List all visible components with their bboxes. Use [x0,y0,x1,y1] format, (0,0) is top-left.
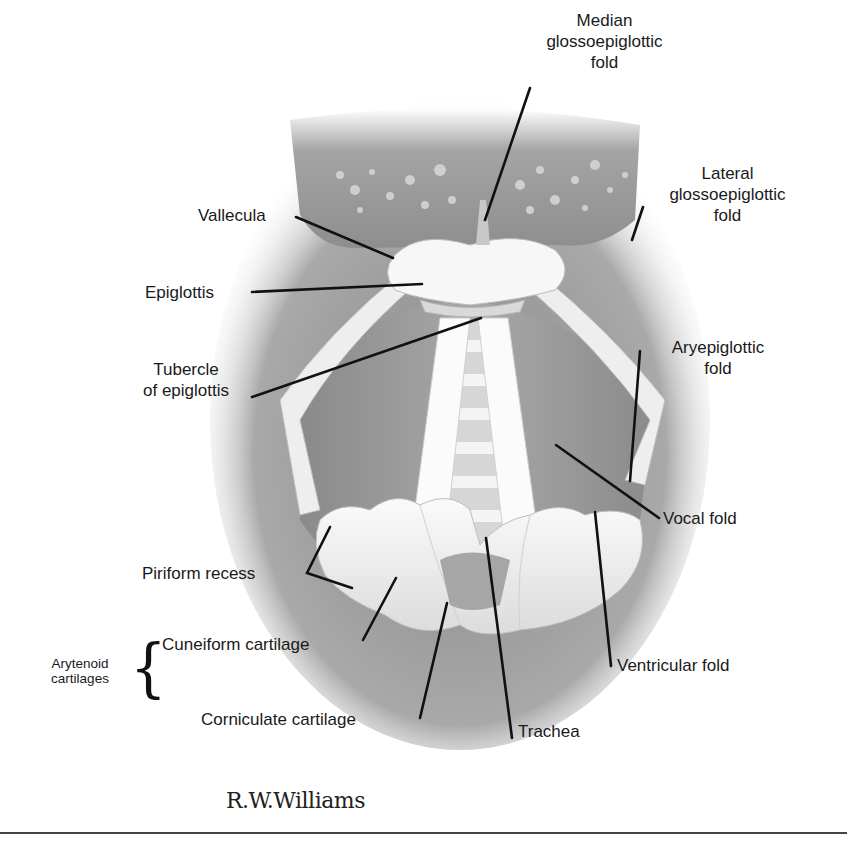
label-trachea: Trachea [518,721,580,742]
tongue-base [290,109,640,248]
label-tubercle-of-epiglottis: Tubercle of epiglottis [125,359,247,401]
larynx-diagram: Median glossoepiglottic fold Lateral glo… [0,0,847,853]
label-ventricular-fold: Ventricular fold [617,655,729,676]
label-epiglottis: Epiglottis [145,282,214,303]
label-cuneiform-cartilage: Cuneiform cartilage [162,634,309,655]
label-corniculate-cartilage: Corniculate cartilage [201,709,356,730]
label-piriform-recess: Piriform recess [142,563,255,584]
label-aryepiglottic-fold: Aryepiglottic fold [648,337,788,379]
label-lateral-glossoepiglottic-fold: Lateral glossoepiglottic fold [640,163,815,226]
label-vocal-fold: Vocal fold [663,508,737,529]
label-median-glossoepiglottic-fold: Median glossoepiglottic fold [517,10,692,73]
label-vallecula: Vallecula [198,205,266,226]
bottom-divider [0,832,847,834]
larynx-illustration [0,0,847,853]
label-arytenoid-cartilages: Arytenoid cartilages [34,656,126,686]
artist-signature: R.W.Williams [226,788,365,813]
glottis-posterior [440,553,510,611]
